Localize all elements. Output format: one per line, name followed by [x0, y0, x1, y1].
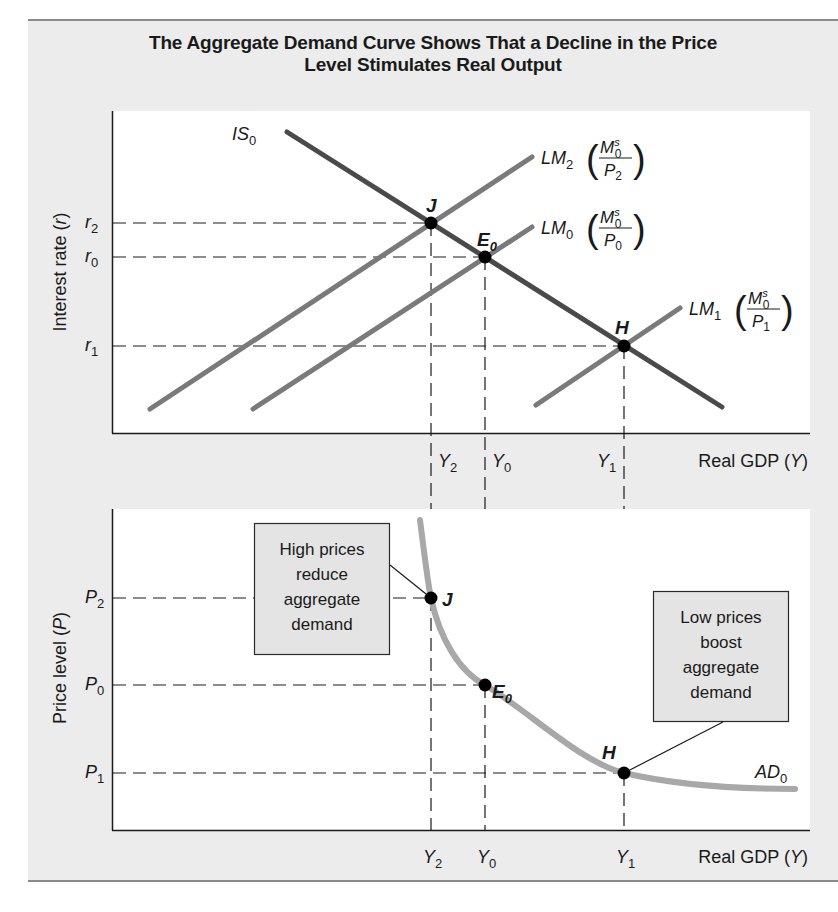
tick-r1: r1	[85, 335, 98, 359]
tick-y2-top: Y2	[438, 451, 457, 475]
ad-y-axis-title: Price level (P)	[50, 612, 70, 724]
svg-text:aggregate: aggregate	[284, 590, 361, 609]
svg-text:demand: demand	[291, 615, 352, 634]
svg-text:): )	[781, 289, 794, 331]
svg-text:High prices: High prices	[279, 540, 364, 559]
callout-low-prices: Low prices boost aggregate demand	[654, 592, 789, 722]
lm2-paren-close: )	[633, 138, 646, 180]
point-j-bottom	[425, 592, 438, 605]
tick-y1-bottom: Y1	[616, 847, 635, 871]
svg-text:(: (	[586, 208, 599, 250]
ad-x-axis-title: Real GDP (Y)	[698, 847, 808, 867]
tick-r2: r2	[85, 212, 98, 236]
ad-chart: J E0 H AD0 High prices reduce aggregate …	[50, 509, 810, 871]
svg-text:reduce: reduce	[296, 565, 348, 584]
svg-text:): )	[633, 208, 646, 250]
point-h-bottom	[618, 767, 631, 780]
tick-p2: P2	[85, 587, 104, 611]
point-h-top	[618, 340, 631, 353]
tick-y0-top: Y0	[492, 451, 511, 475]
svg-text:(: (	[734, 289, 747, 331]
chart-svg: J E0 H IS0 LM2 ( Ms0 P2 ) LM0 ( Ms0 P0	[0, 0, 838, 912]
svg-text:Low prices: Low prices	[680, 608, 761, 627]
point-j-top	[425, 217, 438, 230]
tick-y0-bottom: Y0	[477, 847, 496, 871]
point-j-bottom-label: J	[442, 589, 453, 610]
tick-p1: P1	[85, 762, 104, 786]
tick-y1-top: Y1	[597, 451, 616, 475]
is-lm-x-axis-title: Real GDP (Y)	[698, 451, 808, 471]
point-h-bottom-label: H	[602, 742, 617, 763]
is-lm-y-axis-title: Interest rate (r)	[50, 212, 70, 331]
point-e0-bottom	[479, 679, 492, 692]
point-j-top-label: J	[426, 195, 437, 216]
figure: The Aggregate Demand Curve Shows That a …	[0, 0, 838, 912]
tick-y2-bottom: Y2	[423, 847, 442, 871]
svg-text:boost: boost	[700, 633, 742, 652]
tick-r0: r0	[85, 246, 98, 270]
svg-text:aggregate: aggregate	[683, 658, 760, 677]
lm2-paren-open: (	[586, 138, 599, 180]
callout-high-prices: High prices reduce aggregate demand	[255, 524, 390, 655]
tick-p0: P0	[85, 674, 104, 698]
svg-text:demand: demand	[690, 683, 751, 702]
point-h-top-label: H	[615, 317, 630, 338]
